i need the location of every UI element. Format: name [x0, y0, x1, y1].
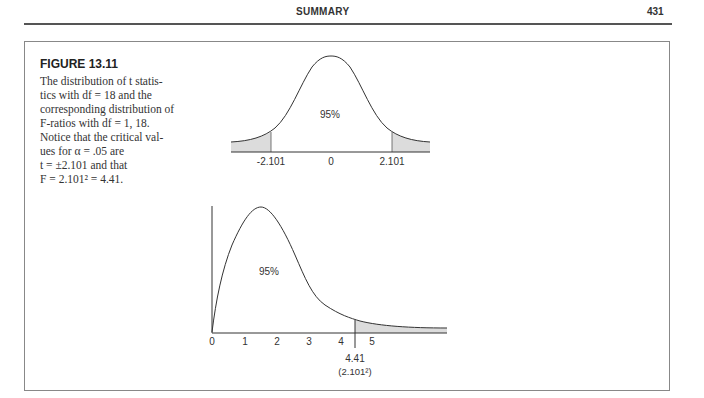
f-tick-label: 5 [369, 336, 375, 347]
t-tick-label: 2.101 [379, 156, 404, 167]
t-tick-label: -2.101 [257, 156, 286, 167]
f-tick-label: 2 [274, 336, 280, 347]
figure-charts: 95% -2.101 0 2.101 95% 0 1 2 3 4 5 4.41 … [0, 0, 704, 398]
f-critical-label: 4.41 [345, 353, 365, 364]
f-tick-label: 4 [338, 336, 344, 347]
t-curve [231, 56, 430, 142]
f-tick-label: 1 [242, 336, 248, 347]
f-tick-label: 0 [209, 336, 215, 347]
f-critical-sublabel: (2.101²) [338, 366, 371, 377]
t-tick-label: 0 [328, 156, 334, 167]
f-curve [212, 207, 447, 332]
t-center-label: 95% [320, 109, 340, 120]
f-tick-label: 3 [306, 336, 312, 347]
t-distribution-chart: 95% -2.101 0 2.101 [231, 56, 430, 167]
f-center-label: 95% [259, 266, 279, 277]
f-distribution-chart: 95% 0 1 2 3 4 5 4.41 (2.101²) [209, 206, 447, 377]
